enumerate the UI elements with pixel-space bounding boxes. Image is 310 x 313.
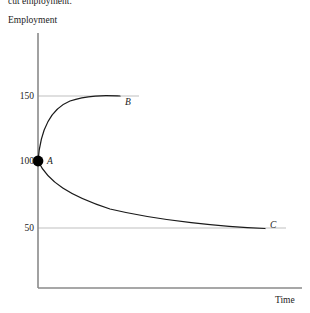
y-tick-label-150: 150 [8, 91, 34, 101]
point-label-b: B [125, 97, 131, 107]
point-a-marker [33, 156, 44, 167]
point-label-a: A [47, 156, 53, 166]
point-label-c: C [270, 220, 276, 230]
y-tick-label-100: 100 [8, 156, 34, 166]
y-tick-label-50: 50 [8, 223, 34, 233]
x-axis-label: Time [275, 294, 295, 306]
curve-lower-branch [38, 161, 265, 229]
curve-upper-branch [38, 96, 120, 161]
